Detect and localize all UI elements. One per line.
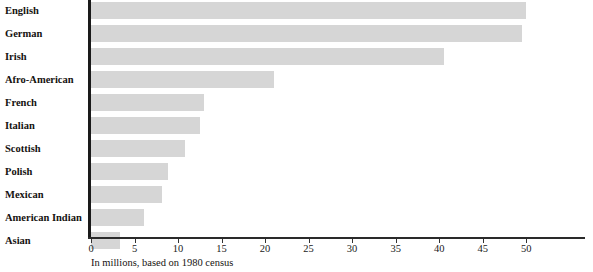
x-axis-tick-label: 5	[120, 243, 150, 254]
bar	[91, 140, 185, 157]
x-axis-tick-label: 45	[468, 243, 498, 254]
x-axis-caption: In millions, based on 1980 census	[91, 257, 233, 268]
bar	[91, 163, 168, 180]
bar	[91, 48, 444, 65]
bar	[91, 186, 162, 203]
x-axis-tick-label: 20	[250, 243, 280, 254]
bar	[91, 25, 522, 42]
bar	[91, 2, 526, 19]
category-label: American Indian	[5, 212, 89, 223]
x-axis-tick-label: 15	[207, 243, 237, 254]
x-axis-tick-label: 10	[163, 243, 193, 254]
category-label: Scottish	[5, 143, 89, 154]
bar	[91, 117, 200, 134]
bar	[91, 94, 204, 111]
category-label: French	[5, 97, 89, 108]
y-axis-line	[88, 0, 91, 239]
x-axis-line	[88, 237, 585, 239]
bar	[91, 209, 144, 226]
x-axis-tick-label: 0	[76, 243, 106, 254]
bar	[91, 71, 274, 88]
category-label: Polish	[5, 166, 89, 177]
category-axis-labels: EnglishGermanIrishAfro-AmericanFrenchIta…	[0, 0, 86, 238]
category-label: Mexican	[5, 189, 89, 200]
x-axis-tick-label: 50	[511, 243, 541, 254]
x-axis-tick-label: 35	[381, 243, 411, 254]
x-axis-tick-label: 40	[424, 243, 454, 254]
category-label: Italian	[5, 120, 89, 131]
plot-area	[91, 0, 561, 238]
category-label: Irish	[5, 51, 89, 62]
category-label: English	[5, 5, 89, 16]
x-axis-tick-label: 30	[337, 243, 367, 254]
bar-chart: EnglishGermanIrishAfro-AmericanFrenchIta…	[0, 0, 593, 272]
x-axis-tick-label: 25	[294, 243, 324, 254]
category-label: Afro-American	[5, 74, 89, 85]
category-label: German	[5, 28, 89, 39]
